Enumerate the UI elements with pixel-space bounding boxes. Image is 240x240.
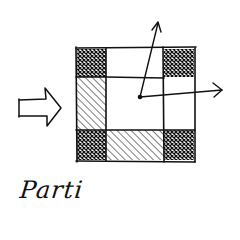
corner-cell-bottom-right (164, 130, 194, 160)
corner-cell-top-right (164, 49, 194, 77)
diagram-caption: Parti (19, 176, 85, 204)
side-cell-bottom (106, 130, 164, 160)
entry-arrow-icon (19, 88, 61, 126)
side-cell-left (77, 77, 106, 130)
view-arrow-right-icon (140, 90, 222, 97)
view-arrow-up-icon (140, 23, 158, 97)
corner-cell-top-left (77, 49, 106, 77)
corner-cell-bottom-left (77, 130, 106, 160)
